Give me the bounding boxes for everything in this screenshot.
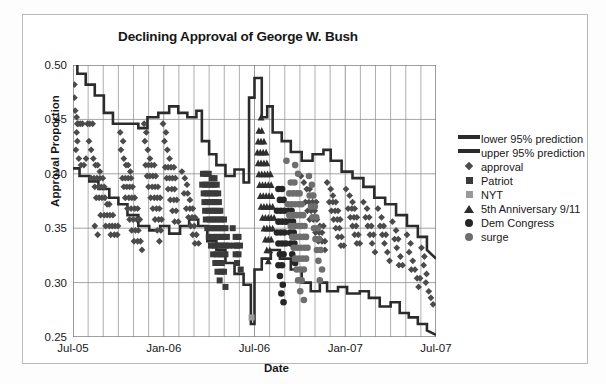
legend-item-upper-95[interactable]: upper 95% prediction <box>457 147 606 160</box>
legend-label: Dem Congress <box>481 217 554 230</box>
y-tick-label: 0.30 <box>45 277 67 289</box>
legend-label: Patriot <box>481 175 513 188</box>
diamond-marker-icon <box>457 161 481 169</box>
series-nyt <box>249 314 255 320</box>
legend-label: approval <box>481 161 523 174</box>
legend-item-approval[interactable]: approval <box>457 161 606 174</box>
legend-item-surge[interactable]: surge <box>457 231 606 244</box>
line-marker-icon <box>457 133 481 139</box>
legend-label: NYT <box>481 189 503 202</box>
x-axis-label: Date <box>95 362 458 374</box>
y-tick-label: 0.35 <box>45 222 67 234</box>
legend-item-lower-95[interactable]: lower 95% prediction <box>457 133 606 146</box>
legend-item-patriot[interactable]: Patriot <box>457 175 606 188</box>
series-patriot <box>199 171 243 290</box>
x-tick-label: Jul-05 <box>57 342 88 354</box>
x-tick-label: Jul-07 <box>420 342 451 354</box>
legend-item-dem-congress[interactable]: Dem Congress <box>457 217 606 230</box>
chart-screenshot: Declining Approval of George W. Bush App… <box>0 0 606 384</box>
x-tick-label: Jul-06 <box>239 342 270 354</box>
legend-item-anniversary[interactable]: 5th Anniversary 9/11 <box>457 203 606 216</box>
y-tick-label: 0.50 <box>45 59 67 71</box>
x-tick-label: Jan-07 <box>328 342 363 354</box>
legend-label: lower 95% prediction <box>481 133 583 146</box>
x-tick-label: Jan-06 <box>146 342 181 354</box>
chart-legend: lower 95% prediction upper 95% predictio… <box>457 133 606 245</box>
line-marker-icon <box>457 147 481 153</box>
legend-label: 5th Anniversary 9/11 <box>481 203 580 216</box>
y-axis-label: Approval Proportion <box>49 71 61 231</box>
legend-label: surge <box>481 231 509 244</box>
plot-svg <box>73 65 436 337</box>
square-marker-icon <box>457 189 481 198</box>
square-marker-icon <box>457 175 481 184</box>
circle-marker-icon <box>457 217 481 227</box>
y-tick-label: 0.45 <box>45 113 67 125</box>
plot-area: 0.250.300.350.400.450.50Jul-05Jan-06Jul-… <box>73 65 436 337</box>
chart-frame: Declining Approval of George W. Bush App… <box>22 14 588 364</box>
legend-item-nyt[interactable]: NYT <box>457 189 606 202</box>
legend-label: upper 95% prediction <box>481 147 585 160</box>
circle-marker-icon <box>457 231 481 241</box>
triangle-marker-icon <box>457 203 481 213</box>
chart-title: Declining Approval of George W. Bush <box>23 29 453 44</box>
y-tick-label: 0.40 <box>45 168 67 180</box>
series-5th-anniversary-9-11 <box>254 114 277 264</box>
